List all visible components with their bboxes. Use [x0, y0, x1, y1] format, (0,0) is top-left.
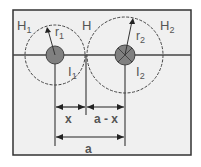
label-x: x [65, 112, 72, 126]
label-h: H [82, 18, 91, 33]
two-conductor-field-diagram: H1 r1 H I1 r2 H2 I2 x a - x a [0, 0, 201, 167]
label-a-minus-x: a - x [94, 112, 118, 126]
label-a: a [85, 142, 92, 156]
